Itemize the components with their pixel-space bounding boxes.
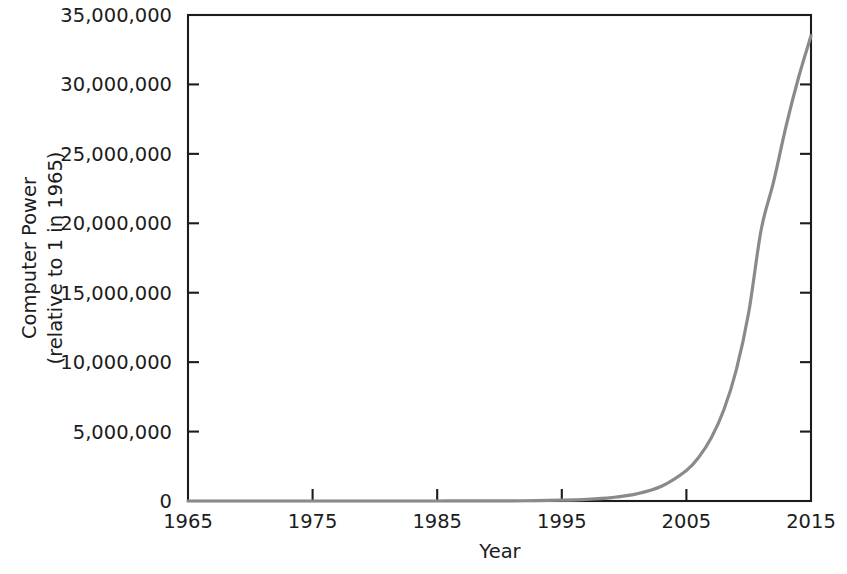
figure-container: 05,000,00010,000,00015,000,00020,000,000…: [0, 0, 847, 574]
y-tick-label-10000000: 10,000,000: [60, 351, 172, 374]
y-tick-label-15000000: 15,000,000: [60, 282, 172, 305]
x-tick-label-2005: 2005: [662, 510, 712, 533]
y-tick-label-20000000: 20,000,000: [60, 212, 172, 235]
y-tick-label-30000000: 30,000,000: [60, 73, 172, 96]
y-axis-title-line2: (relative to 1 in 1965): [44, 152, 67, 365]
y-tick-label-35000000: 35,000,000: [60, 4, 172, 27]
x-tick-label-1975: 1975: [288, 510, 338, 533]
y-tick-label-25000000: 25,000,000: [60, 143, 172, 166]
x-tick-label-2015: 2015: [786, 510, 836, 533]
x-tick-label-1985: 1985: [412, 510, 462, 533]
y-axis-tick-labels: 05,000,00010,000,00015,000,00020,000,000…: [60, 4, 172, 513]
x-tick-label-1965: 1965: [163, 510, 213, 533]
x-axis-title: Year: [478, 540, 521, 563]
y-axis-title-line1: Computer Power: [18, 176, 41, 339]
computer-power-line-chart: 05,000,00010,000,00015,000,00020,000,000…: [0, 0, 847, 574]
x-tick-label-1995: 1995: [537, 510, 587, 533]
x-axis-tick-labels: 196519751985199520052015: [163, 510, 836, 533]
y-tick-label-5000000: 5,000,000: [73, 421, 172, 444]
